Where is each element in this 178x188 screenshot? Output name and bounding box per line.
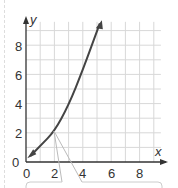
- svg-text:2: 2: [15, 126, 22, 141]
- svg-text:0: 0: [12, 155, 19, 170]
- svg-text:4: 4: [15, 97, 22, 112]
- callout-box: [26, 182, 162, 188]
- x-axis-label: x: [154, 144, 162, 159]
- chart: y x 0 2 4 6 8 0 2 4 6 8: [0, 0, 178, 188]
- y-axis-label: y: [29, 12, 38, 27]
- x-axis-arrow-icon: [160, 159, 168, 165]
- svg-text:6: 6: [15, 68, 22, 83]
- x-tick-labels: 0 2 4 6 8: [23, 166, 143, 181]
- svg-text:8: 8: [136, 166, 143, 181]
- y-tick-labels: 0 2 4 6 8: [12, 39, 22, 170]
- y-axis-arrow-icon: [23, 16, 29, 24]
- svg-text:2: 2: [51, 166, 58, 181]
- svg-text:8: 8: [15, 39, 22, 54]
- svg-text:0: 0: [23, 166, 30, 181]
- svg-text:6: 6: [108, 166, 115, 181]
